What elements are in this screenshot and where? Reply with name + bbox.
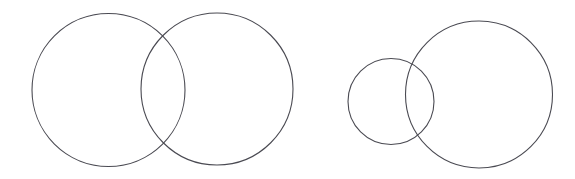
circles-figure: [0, 0, 575, 179]
figure-canvas: [0, 0, 575, 179]
figure-background: [0, 0, 575, 179]
